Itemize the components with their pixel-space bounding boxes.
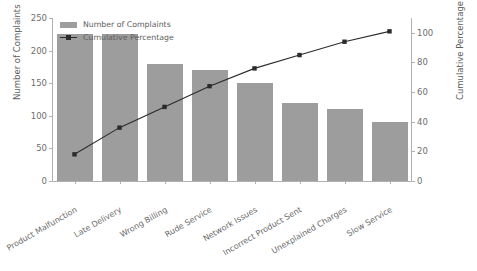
- x-tick-label: Incorrect Product Sent: [222, 206, 303, 257]
- line-marker: [387, 29, 391, 33]
- y-tick-label-left: 200: [31, 46, 47, 55]
- bar-swatch-icon: [60, 22, 77, 28]
- line-marker: [72, 152, 76, 156]
- y-axis-right-title: Cumulative Percentage (%): [456, 0, 465, 100]
- y-tick-label-right: 60: [417, 88, 428, 97]
- x-tick-label: Slow Service: [345, 206, 393, 238]
- line-marker: [117, 125, 121, 129]
- y-tick-label-left: 150: [31, 79, 47, 88]
- y-tick-label-right: 20: [417, 147, 428, 156]
- y-tick-right: [412, 122, 415, 123]
- x-tick-mark: [120, 181, 121, 184]
- x-tick-mark: [75, 181, 76, 184]
- line-marker: [207, 84, 211, 88]
- y-tick-label-right: 100: [417, 29, 433, 38]
- y-tick-right: [412, 151, 415, 152]
- line-marker: [252, 66, 256, 70]
- legend-item-line: Cumulative Percentage: [60, 32, 174, 43]
- y-tick-label-left: 100: [31, 112, 47, 121]
- x-tick-mark: [165, 181, 166, 184]
- x-tick-label: Product Malfunction: [6, 206, 79, 253]
- line-marker: [342, 40, 346, 44]
- x-tick-mark: [300, 181, 301, 184]
- x-tick-label: Late Delivery: [73, 206, 123, 240]
- y-tick-right: [412, 33, 415, 34]
- y-tick-right: [412, 62, 415, 63]
- legend-label-line: Cumulative Percentage: [83, 34, 174, 42]
- line-marker-swatch-icon: [60, 34, 77, 41]
- legend: Number of Complaints Cumulative Percenta…: [60, 19, 174, 45]
- y-tick-label-right: 0: [417, 177, 422, 186]
- legend-label-bars: Number of Complaints: [83, 21, 171, 29]
- y-tick-right: [412, 181, 415, 182]
- y-tick-label-right: 40: [417, 117, 428, 126]
- y-tick-label-left: 0: [42, 177, 47, 186]
- y-tick-label-left: 250: [31, 14, 47, 23]
- line-marker: [162, 105, 166, 109]
- y-tick-label-right: 80: [417, 58, 428, 67]
- x-tick-mark: [390, 181, 391, 184]
- y-tick-label-left: 50: [36, 144, 47, 153]
- pareto-chart-figure: Number of Complaints Cumulative Percenta…: [0, 0, 477, 271]
- x-tick-label: Wrong Billing: [119, 206, 169, 239]
- x-tick-mark: [255, 181, 256, 184]
- legend-item-bars: Number of Complaints: [60, 19, 174, 30]
- y-tick-right: [412, 92, 415, 93]
- y-axis-left-title: Number of Complaints: [13, 4, 22, 100]
- x-tick-mark: [210, 181, 211, 184]
- x-tick-mark: [345, 181, 346, 184]
- line-marker: [297, 53, 301, 57]
